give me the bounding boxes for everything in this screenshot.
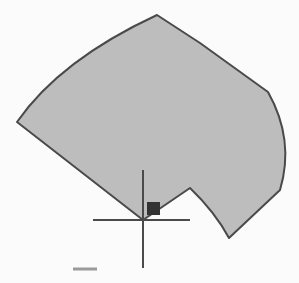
pickbox-snap-marker-icon [147,202,160,215]
drawing-canvas[interactable] [0,0,299,283]
drawing-svg [0,0,299,283]
